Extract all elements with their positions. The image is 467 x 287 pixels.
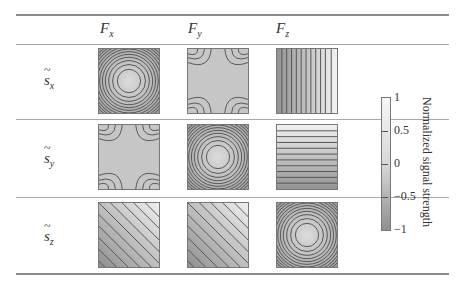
column-header-fx: Fx [100,20,114,39]
colorbar-tick-label-neg1: −1 [394,222,407,237]
plot-sy-fx-saddle [98,124,160,190]
plot-sx-fz-vertical-stripes [276,48,338,114]
colorbar-tick [382,131,388,132]
colorbar-tick-label-0: 0 [394,156,400,171]
plot-sy-fy-concentric [187,124,249,190]
plot-sz-fy-diagonal-stripes [187,202,249,268]
colorbar-tick [382,164,388,165]
colorbar-tick-label-neg0.5: −0.5 [394,189,416,204]
row-label-sz: sz [44,228,54,247]
row-label-sy: sy [44,150,54,169]
bottom-rule [16,273,449,275]
colorbar-tick-label-1: 1 [394,90,400,105]
plot-sx-fy-saddle [187,48,249,114]
plot-sy-fz-horizontal-stripes [276,124,338,190]
column-header-fy: Fy [188,20,202,39]
plot-sz-fz-concentric [276,202,338,268]
top-rule [16,14,449,16]
column-header-fz: Fz [276,20,289,39]
row-label-sx: sx [44,72,54,91]
colorbar-title: Normalized signal strength [419,97,434,227]
colorbar-tick [382,197,388,198]
plot-sx-fx-concentric [98,48,160,114]
header-rule [16,44,449,45]
colorbar-tick-label-0.5: 0.5 [394,123,409,138]
plot-sz-fx-diagonal-stripes [98,202,160,268]
